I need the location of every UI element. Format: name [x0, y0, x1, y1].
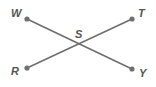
- segment-group: [27, 19, 132, 69]
- vertex-dot-r: [24, 65, 29, 70]
- vertex-dot-t: [129, 16, 134, 21]
- point-label-y: Y: [139, 68, 146, 79]
- point-label-t: T: [138, 8, 145, 19]
- geometry-figure: W T S R Y: [0, 0, 156, 87]
- point-label-w: W: [11, 8, 21, 19]
- point-label-s: S: [75, 29, 82, 40]
- point-label-r: R: [11, 66, 19, 77]
- vertex-dot-y: [129, 66, 134, 71]
- geometry-canvas: [0, 0, 156, 87]
- vertex-dot-w: [24, 16, 29, 21]
